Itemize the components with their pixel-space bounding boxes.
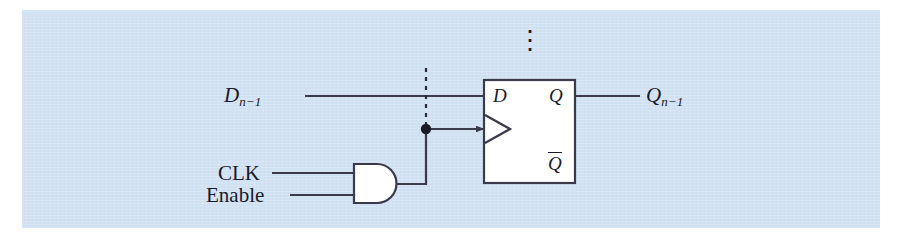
d-input-label: Dn−1	[224, 85, 262, 108]
enable-input-label: Enable	[206, 185, 264, 206]
ff-port-d-label: D	[493, 86, 507, 105]
clock-junction-dot	[421, 124, 431, 134]
q-output-subscript: n−1	[661, 94, 683, 109]
figure-root: Dn−1 Qn−1 CLK Enable D Q Q ⋮	[0, 0, 902, 244]
ff-port-qbar-text: Q	[548, 152, 562, 173]
gated-clock-wire	[397, 129, 426, 184]
circuit-schematic	[0, 0, 902, 244]
q-output-label: Qn−1	[646, 85, 684, 108]
d-input-subscript: n−1	[239, 94, 261, 109]
ff-port-qbar-label: Q	[548, 152, 562, 173]
ff-port-q-label: Q	[549, 86, 563, 105]
and-gate	[354, 164, 397, 203]
continuation-ellipsis: ⋮	[517, 28, 543, 54]
d-input-base: D	[224, 83, 239, 107]
q-output-base: Q	[646, 83, 661, 107]
clk-input-label: CLK	[218, 163, 260, 184]
